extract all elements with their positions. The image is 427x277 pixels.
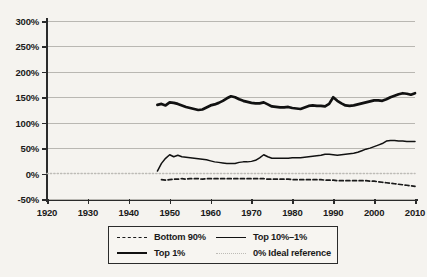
x-axis-tick (415, 199, 417, 204)
y-axis-label: 250% (16, 41, 40, 52)
legend-item-label: Top 10%–1% (253, 232, 307, 242)
x-axis-tick (47, 199, 49, 204)
x-axis-label: 1970 (241, 207, 261, 218)
x-axis-label: 1930 (78, 207, 98, 218)
x-axis-tick (88, 199, 90, 204)
x-axis-label: 2010 (405, 207, 425, 218)
series-line-top-1 (157, 93, 415, 110)
y-axis-label: 100% (16, 117, 40, 128)
legend-item[interactable]: Bottom 90% (117, 232, 216, 242)
x-axis-tick (129, 199, 131, 204)
plot-canvas: 300%250%200%150%100%50%0%-50% 1920193019… (47, 21, 415, 199)
legend-items-group: Bottom 90%Top 10%–1%Top 1%0% Ideal refer… (109, 227, 337, 263)
y-axis-label: 150% (16, 92, 40, 103)
y-axis-label: -50% (18, 194, 39, 205)
x-axis-tick (251, 199, 253, 204)
legend-swatch-thick-solid-icon (117, 252, 147, 254)
legend-swatch-dotted-icon (216, 253, 246, 254)
x-axis-tick (374, 199, 376, 204)
x-axis-tick (292, 199, 294, 204)
y-axis-label: 200% (16, 66, 40, 77)
plot-area: 300%250%200%150%100%50%0%-50% 1920193019… (0, 0, 427, 215)
x-axis-label: 2000 (364, 207, 384, 218)
legend-item[interactable]: Top 1% (117, 248, 216, 258)
x-axis-label: 1950 (159, 207, 179, 218)
legend-item[interactable]: 0% Ideal reference (216, 248, 331, 258)
x-axis-label: 1920 (37, 207, 57, 218)
x-axis-label: 1980 (282, 207, 302, 218)
y-axis-label: 50% (21, 143, 39, 154)
legend-item-label: Top 1% (154, 248, 185, 258)
series-line-bottom-90 (161, 179, 415, 187)
x-axis-tick (211, 199, 213, 204)
y-axis-label: 0% (26, 168, 39, 179)
y-axis-label: 300% (16, 16, 40, 27)
series-line-top-10-1 (157, 141, 415, 172)
legend-item-label: 0% Ideal reference (253, 248, 331, 258)
chart-legend: Bottom 90%Top 10%–1%Top 1%0% Ideal refer… (108, 226, 338, 264)
legend-swatch-dashed-icon (117, 237, 147, 238)
x-axis-label: 1960 (200, 207, 220, 218)
legend-swatch-thin-solid-icon (216, 237, 246, 238)
legend-item[interactable]: Top 10%–1% (216, 232, 331, 242)
x-axis-label: 1940 (119, 207, 139, 218)
data-series-group (47, 21, 415, 199)
x-axis-tick (333, 199, 335, 204)
legend-item-label: Bottom 90% (154, 232, 206, 242)
x-axis-tick (170, 199, 172, 204)
x-axis-label: 1990 (323, 207, 343, 218)
chart-container: 300%250%200%150%100%50%0%-50% 1920193019… (0, 0, 427, 277)
gridline (47, 199, 415, 200)
